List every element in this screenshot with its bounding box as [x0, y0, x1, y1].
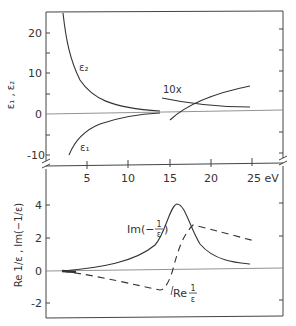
top-ytick-0: 0	[35, 108, 42, 121]
xtick-20: 20	[204, 172, 218, 185]
eps2-curve	[63, 13, 160, 111]
top-zero-line	[46, 110, 283, 114]
bottom-curves	[62, 204, 255, 290]
bottom-ytick-2: 2	[35, 232, 42, 245]
bottom-ytick-4: 4	[35, 199, 42, 212]
eps2-10x-curve	[162, 98, 250, 107]
xtick-15: 15	[163, 172, 177, 185]
bottom-panel-bottom-border	[46, 316, 283, 318]
xtick-5: 5	[84, 172, 91, 185]
top-ytick-20: 20	[28, 27, 42, 40]
top-y-ticks	[46, 33, 50, 155]
eps1-label: ε₁	[80, 142, 89, 153]
re-label: Re 1 ε	[171, 284, 197, 304]
x-axis	[46, 163, 283, 166]
top-ylabel: ε₁ , ε₂	[5, 81, 16, 109]
svg-text:): )	[164, 223, 168, 236]
bottom-ytick-0: 0	[35, 265, 42, 278]
bottom-ytick-neg2: -2	[31, 297, 42, 310]
eps2-label: ε₂	[79, 62, 88, 73]
dielectric-function-chart: ε₂ ε₁ 10x ε₁ , ε₂ 20 10 0 -10 5 10 15 20…	[0, 0, 296, 326]
svg-text:1: 1	[156, 220, 161, 229]
svg-text:Im(−: Im(−	[127, 223, 154, 236]
top-y-ticks-right	[279, 29, 283, 153]
svg-text:1: 1	[190, 284, 195, 293]
eps1-10x-curve	[170, 86, 250, 120]
xtick-10: 10	[121, 172, 135, 185]
svg-text:Re: Re	[173, 287, 187, 300]
tenx-label: 10x	[163, 84, 182, 95]
top-ytick-neg10: -10	[27, 149, 45, 162]
top-ytick-10: 10	[28, 67, 42, 80]
svg-text:ε: ε	[191, 295, 195, 304]
bottom-y-ticks	[46, 205, 50, 303]
im-label: Im(− 1 ε )	[127, 220, 168, 239]
top-curves	[63, 13, 250, 155]
xtick-25: 25 eV	[247, 172, 279, 185]
top-panel-top-border	[46, 11, 283, 12]
bottom-curves-origin	[62, 271, 76, 272]
bottom-panel	[46, 166, 283, 318]
bottom-ylabel: Re 1/ε , Im(−1/ε)	[13, 203, 24, 288]
svg-text:ε: ε	[157, 230, 161, 239]
bottom-y-ticks-right	[279, 203, 283, 300]
